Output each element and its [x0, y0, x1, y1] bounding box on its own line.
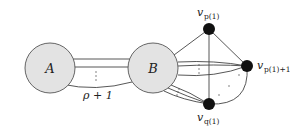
vertex-vp1	[203, 23, 215, 35]
vertex-vq1	[203, 98, 215, 110]
svg-text:p(1)+1: p(1)+1	[264, 65, 290, 74]
ellipsis-dots-a-b	[95, 71, 96, 80]
svg-text:v: v	[197, 6, 204, 19]
svg-text:p(1): p(1)	[204, 12, 219, 21]
svg-text:v: v	[257, 59, 264, 72]
ellipsis-dots-b-vp1p1	[198, 64, 199, 73]
ellipsis-dots-diagonal	[218, 74, 239, 95]
node-a: A	[25, 43, 75, 93]
vertex-vp1p1	[241, 60, 253, 72]
rho-label: ρ + 1	[82, 89, 113, 102]
label-vp1p1: v p(1)+1	[257, 59, 290, 74]
node-b-label: B	[147, 61, 158, 76]
graph-diagram: A B ρ + 1 v p(1) v p(1)+1 v q(1)	[0, 0, 308, 132]
label-vq1: v q(1)	[197, 111, 219, 126]
node-b: B	[128, 43, 178, 93]
svg-text:q(1): q(1)	[204, 117, 219, 126]
svg-text:v: v	[197, 111, 204, 124]
label-vp1: v p(1)	[197, 6, 219, 21]
node-a-label: A	[44, 61, 54, 76]
